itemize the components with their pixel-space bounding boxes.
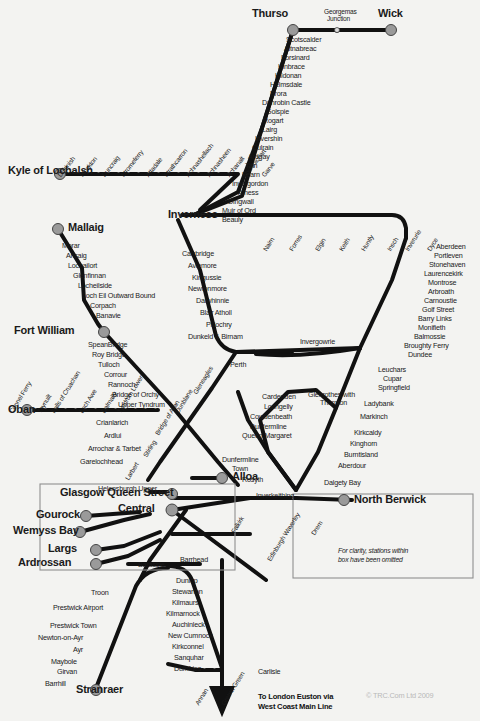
- station-label[interactable]: Cupar: [383, 375, 402, 382]
- station-label[interactable]: Beauly: [222, 216, 243, 223]
- station-label[interactable]: Helmsdale: [270, 81, 302, 88]
- station-label[interactable]: Dumfries: [174, 665, 201, 672]
- station-label[interactable]: Aviemore: [188, 262, 217, 269]
- station-label[interactable]: Locheilside: [78, 282, 112, 289]
- station-label[interactable]: Garelochhead: [80, 458, 123, 465]
- station-label[interactable]: Dunrobin Castle: [262, 99, 311, 106]
- station-label[interactable]: Rogart: [263, 117, 283, 124]
- station-label[interactable]: Ayr: [73, 646, 83, 653]
- station-label[interactable]: Loch Eil Outward Bound: [82, 292, 155, 299]
- station-label[interactable]: Invergordon: [232, 180, 268, 187]
- station-label[interactable]: Glenfinnan: [73, 272, 106, 279]
- station-label[interactable]: Lairg: [262, 126, 277, 133]
- station-label[interactable]: Dundee: [408, 351, 432, 358]
- station-label[interactable]: Crianlarich: [96, 419, 128, 426]
- station-label[interactable]: Stonehaven: [429, 261, 465, 268]
- station-label[interactable]: Thurnton: [320, 399, 347, 406]
- station-label[interactable]: Queen Margaret: [242, 432, 292, 439]
- station-label[interactable]: Prestwick Airport: [53, 604, 103, 611]
- station-label-fort-william[interactable]: Fort William: [14, 325, 74, 336]
- station-label-mallaig[interactable]: Mallaig: [68, 222, 104, 233]
- station-label[interactable]: Springfield: [378, 384, 410, 391]
- station-label[interactable]: Altnabreac: [284, 45, 316, 52]
- station-label[interactable]: Aberdour: [338, 462, 366, 469]
- station-label[interactable]: Kildonan: [275, 72, 301, 79]
- station-label[interactable]: Dalgety Bay: [324, 479, 361, 486]
- station-label[interactable]: Rosyth: [242, 476, 263, 483]
- station-label[interactable]: Burntisland: [344, 451, 378, 458]
- station-label[interactable]: Newton-on-Ayr: [38, 634, 83, 641]
- station-label-thurso[interactable]: Thurso: [252, 8, 288, 19]
- station-label[interactable]: Dalwhinnie: [196, 297, 229, 304]
- station-label[interactable]: Portleven: [434, 252, 463, 259]
- station-label[interactable]: Carrbridge: [182, 250, 214, 257]
- station-label[interactable]: Girvan: [57, 668, 77, 675]
- station-label[interactable]: Ardlui: [104, 432, 121, 439]
- station-label[interactable]: Lochgelly: [264, 403, 293, 410]
- station-label[interactable]: Maybole: [51, 658, 77, 665]
- station-label-wemyss-bay[interactable]: Wemyss Bay: [13, 525, 79, 536]
- station-label[interactable]: Arbroath: [428, 288, 454, 295]
- station-label[interactable]: Ladybank: [364, 400, 394, 407]
- station-label[interactable]: Arrochar & Tarbet: [88, 445, 141, 452]
- station-label[interactable]: Newtonmore: [188, 285, 227, 292]
- station-label[interactable]: Banavie: [96, 312, 121, 319]
- station-label-stranraer[interactable]: Stranraer: [76, 684, 123, 695]
- station-label-gourock[interactable]: Gourock: [36, 509, 80, 520]
- station-label[interactable]: Kirkconnel: [172, 643, 204, 650]
- station-label[interactable]: Dunlop: [176, 577, 198, 584]
- station-label[interactable]: Muir of Ord: [222, 207, 256, 214]
- station-label[interactable]: Invergowrie: [300, 338, 335, 345]
- station-label[interactable]: Forsinard: [281, 54, 310, 61]
- station-label[interactable]: Prestwick Town: [50, 622, 97, 629]
- station-label[interactable]: Sanquhar: [174, 654, 204, 661]
- station-label[interactable]: Montrose: [428, 279, 456, 286]
- station-label[interactable]: Carnoustie: [424, 297, 457, 304]
- station-label[interactable]: SpeanBridge: [88, 341, 127, 348]
- station-label[interactable]: Balmossie: [414, 333, 445, 340]
- station-label[interactable]: Golf Street: [422, 306, 454, 313]
- station-label[interactable]: Tulloch: [98, 361, 120, 368]
- station-label[interactable]: Markinch: [360, 413, 388, 420]
- station-label[interactable]: Morar: [62, 242, 80, 249]
- station-label-inverness[interactable]: Inverness: [168, 209, 218, 220]
- station-label[interactable]: Blair Atholl: [200, 309, 232, 316]
- station-label-wick[interactable]: Wick: [378, 8, 403, 19]
- station-label[interactable]: Invershin: [255, 135, 282, 142]
- station-label[interactable]: Aberdeen: [436, 243, 466, 250]
- station-label[interactable]: Pitlochry: [206, 321, 232, 328]
- station-label-north-berwick[interactable]: North Berwick: [354, 494, 426, 505]
- station-label[interactable]: Kilmarnock: [166, 610, 200, 617]
- station-label[interactable]: Dunkeld & Birnam: [188, 333, 243, 340]
- station-label[interactable]: New Cumnock: [168, 632, 213, 639]
- station-label[interactable]: Monifieth: [418, 324, 445, 331]
- station-label[interactable]: Golspie: [266, 108, 289, 115]
- station-label[interactable]: Dunfermline: [250, 423, 287, 430]
- station-label[interactable]: Carlisle: [258, 668, 280, 675]
- station-label[interactable]: Junction: [327, 16, 350, 23]
- station-label[interactable]: Brora: [270, 90, 287, 97]
- station-label[interactable]: Kinghorn: [350, 440, 377, 447]
- station-label[interactable]: Barassie: [138, 561, 164, 568]
- station-label[interactable]: Helensburgh Upper: [98, 485, 157, 492]
- station-label[interactable]: Troon: [91, 589, 109, 596]
- station-label[interactable]: Scotscalder: [286, 36, 321, 43]
- station-label[interactable]: Broughty Ferry: [404, 342, 449, 349]
- station-label[interactable]: Auchinleck: [172, 621, 205, 628]
- station-label[interactable]: Leuchars: [378, 366, 406, 373]
- station-label[interactable]: Arisaig: [66, 252, 87, 259]
- station-label[interactable]: Perth: [230, 361, 246, 368]
- station-label[interactable]: Alness: [238, 189, 258, 196]
- station-label-largs[interactable]: Largs: [48, 543, 77, 554]
- station-label[interactable]: Barrhead: [180, 556, 208, 563]
- station-label-ardrossan[interactable]: Ardrossan: [18, 557, 71, 568]
- station-label[interactable]: Kinbrace: [278, 63, 305, 70]
- station-label[interactable]: Barrhill: [45, 680, 66, 687]
- station-label[interactable]: Cowdenbeath: [250, 413, 292, 420]
- station-label[interactable]: Kilmaurs: [172, 599, 198, 606]
- station-label[interactable]: Corpach: [90, 302, 116, 309]
- station-label[interactable]: Laurencekirk: [424, 270, 463, 277]
- station-label[interactable]: Lochailort: [68, 262, 97, 269]
- station-label[interactable]: Barry Links: [418, 315, 452, 322]
- station-label[interactable]: Cardenden: [262, 393, 296, 400]
